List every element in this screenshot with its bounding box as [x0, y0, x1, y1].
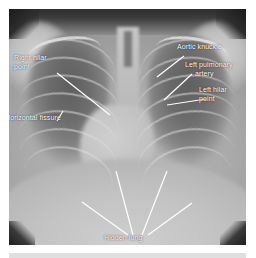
corner-shade-top-left	[9, 9, 39, 39]
bottom-caption-band	[9, 253, 246, 258]
figure-page: Right hilar point Horizontal fissure Aor…	[0, 0, 256, 258]
trachea	[124, 31, 132, 67]
chest-xray-image: Right hilar point Horizontal fissure Aor…	[9, 9, 246, 245]
corner-shade-top-right	[216, 9, 246, 39]
corner-shade-bottom-left	[9, 221, 35, 245]
corner-shade-bottom-right	[220, 221, 246, 245]
